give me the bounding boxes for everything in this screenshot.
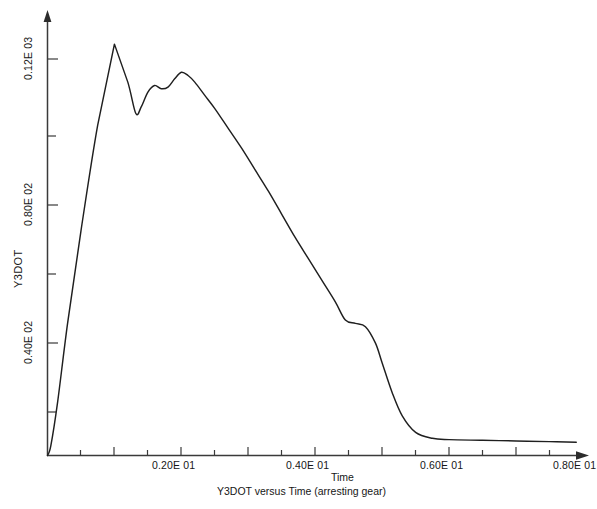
- x-axis-title: Time: [331, 471, 354, 483]
- y-axis-ticks: [48, 59, 59, 412]
- y-tick-label-120: 0.12E 03: [22, 37, 34, 80]
- y-axis-arrowhead: [44, 10, 52, 22]
- figure-container: 0.12E 03 0.80E 02 0.40E 02 Y3DOT 0.20E 0…: [0, 0, 597, 509]
- x-axis-ticks: [81, 447, 550, 456]
- y-tick-label-80: 0.80E 02: [22, 183, 34, 226]
- figure-caption: Y3DOT versus Time (arresting gear): [217, 485, 386, 497]
- x-tick-label-4: 0.40E 01: [286, 459, 329, 471]
- y-tick-label-40: 0.40E 02: [22, 321, 34, 364]
- data-series-y3dot: [48, 44, 577, 455]
- y-axis-title: Y3DOT: [12, 249, 24, 288]
- x-tick-label-8: 0.80E 01: [553, 459, 596, 471]
- chart-plot-area: [0, 0, 597, 509]
- x-tick-label-2: 0.20E 01: [152, 459, 195, 471]
- x-tick-label-6: 0.60E 01: [420, 459, 463, 471]
